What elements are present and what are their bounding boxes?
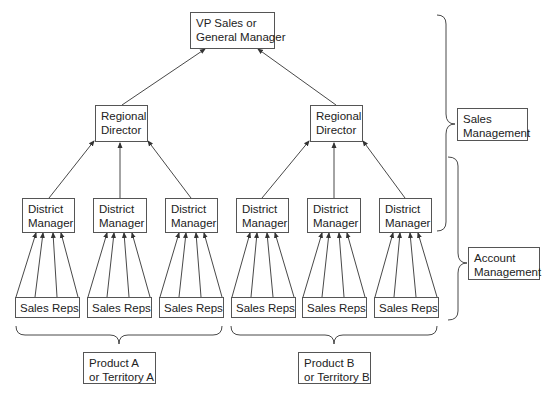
sales-management-label-box: Sales Management — [457, 108, 528, 141]
product-a-label-box: Product A or Territory A — [83, 352, 156, 384]
sales-reps-label: Sales Reps — [379, 301, 434, 315]
regional-line1: Regional — [316, 109, 357, 123]
sales-management-line2: Management — [463, 126, 522, 140]
regional-line2: Director — [316, 123, 357, 137]
account-management-label-box: Account Management — [468, 247, 540, 280]
district-manager-box: District Manager — [379, 198, 432, 233]
district-manager-box: District Manager — [236, 198, 289, 233]
sales-management-line1: Sales — [463, 112, 522, 126]
regional-line1: Regional — [101, 109, 142, 123]
product-a-brace — [16, 326, 222, 344]
district-line2: Manager — [171, 216, 212, 230]
district-line2: Manager — [242, 216, 283, 230]
account-management-line1: Account — [474, 251, 534, 265]
district-manager-box: District Manager — [165, 198, 218, 233]
product-b-brace — [231, 326, 437, 344]
district-line1: District — [242, 202, 283, 216]
district-line2: Manager — [385, 216, 426, 230]
vp-line1: VP Sales or — [196, 16, 269, 30]
sales-management-brace — [437, 15, 455, 231]
district-line1: District — [385, 202, 426, 216]
district-manager-box: District Manager — [22, 198, 75, 233]
sales-reps-box: Sales Reps — [87, 297, 152, 318]
district-line2: Manager — [313, 216, 355, 230]
sales-reps-label: Sales Reps — [236, 301, 291, 315]
vp-sales-box: VP Sales or General Manager — [190, 12, 275, 49]
product-a-line1: Product A — [89, 356, 150, 370]
sales-reps-label: Sales Reps — [164, 301, 219, 315]
product-b-line1: Product B — [304, 356, 365, 370]
account-management-line2: Management — [474, 265, 534, 279]
district-manager-box: District Manager — [93, 198, 147, 233]
sales-reps-label: Sales Reps — [20, 301, 75, 315]
district-line2: Manager — [28, 216, 69, 230]
district-line1: District — [99, 202, 141, 216]
district-line1: District — [313, 202, 355, 216]
product-a-line2: or Territory A — [89, 370, 150, 384]
sales-reps-box: Sales Reps — [231, 297, 296, 318]
regional-director-box-left: Regional Director — [95, 105, 148, 142]
sales-reps-box: Sales Reps — [374, 297, 439, 318]
district-line1: District — [171, 202, 212, 216]
district-manager-box: District Manager — [307, 198, 361, 233]
vp-line2: General Manager — [196, 30, 269, 44]
sales-reps-box: Sales Reps — [15, 297, 80, 318]
regional-director-box-right: Regional Director — [310, 105, 363, 142]
regional-line2: Director — [101, 123, 142, 137]
product-b-label-box: Product B or Territory B — [298, 352, 371, 384]
sales-reps-box: Sales Reps — [302, 297, 367, 318]
sales-reps-box: Sales Reps — [159, 297, 224, 318]
sales-reps-label: Sales Reps — [307, 301, 362, 315]
district-line2: Manager — [99, 216, 141, 230]
district-line1: District — [28, 202, 69, 216]
sales-reps-label: Sales Reps — [92, 301, 147, 315]
account-management-brace — [448, 157, 467, 320]
product-b-line2: or Territory B — [304, 370, 365, 384]
